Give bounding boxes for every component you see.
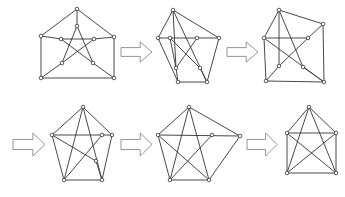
graph-vertex xyxy=(210,133,214,137)
graph-2 xyxy=(156,8,221,84)
graph-edge xyxy=(52,135,96,161)
right-arrow-icon xyxy=(13,133,45,156)
graph-vertex xyxy=(100,178,104,182)
graph-vertex xyxy=(50,133,54,137)
graph-vertex xyxy=(92,37,96,41)
graph-edge xyxy=(264,10,279,38)
graph-edge xyxy=(308,24,323,38)
graph-vertex xyxy=(91,61,95,65)
graph-edge xyxy=(170,38,200,68)
graph-vertex xyxy=(39,76,43,80)
graph-edge xyxy=(158,10,173,38)
graph-vertex xyxy=(322,80,326,84)
graph-vertex xyxy=(321,22,325,26)
graph-vertex xyxy=(217,36,221,40)
graph-vertex xyxy=(112,76,116,80)
graph-edge xyxy=(189,107,209,180)
graph-edge xyxy=(266,66,279,81)
graph-transformation-diagram xyxy=(0,0,345,197)
graph-vertex xyxy=(60,61,64,65)
graph-vertex xyxy=(59,37,63,41)
graph-vertex xyxy=(174,66,178,70)
graph-vertex xyxy=(207,178,211,182)
graph-vertex xyxy=(156,133,160,137)
graph-edge xyxy=(266,81,324,82)
graph-edge xyxy=(83,107,102,180)
graph-edge xyxy=(96,161,102,180)
graph-vertex xyxy=(198,66,202,70)
graph-vertex xyxy=(306,36,310,40)
graph-edge xyxy=(158,135,170,180)
graph-edge xyxy=(41,36,61,39)
graph-vertex xyxy=(110,133,114,137)
graph-vertex xyxy=(285,131,289,135)
graph-edge xyxy=(93,63,114,78)
graph-edge xyxy=(323,24,324,82)
graph-edge xyxy=(279,10,303,67)
graph-vertex xyxy=(81,105,85,109)
graph-vertex xyxy=(285,171,289,175)
graph-edge xyxy=(52,107,83,135)
graph-edge xyxy=(176,38,197,68)
graph-vertex xyxy=(187,105,191,109)
graph-vertex xyxy=(168,178,172,182)
graph-vertex xyxy=(171,8,175,12)
graph-vertex xyxy=(238,134,242,138)
graph-edge xyxy=(41,63,62,78)
graph-edge xyxy=(52,135,64,180)
graph-edge xyxy=(41,9,77,36)
graph-vertex xyxy=(264,79,268,83)
right-arrow-icon xyxy=(227,42,258,62)
graph-edge xyxy=(158,107,189,135)
graph-vertex xyxy=(262,36,266,40)
graph-edge xyxy=(287,107,309,173)
graph-edge xyxy=(158,135,240,136)
graph-edge xyxy=(287,107,309,133)
graph-edge xyxy=(77,9,114,37)
right-arrow-icon xyxy=(121,42,152,62)
graph-vertex xyxy=(39,34,43,38)
graph-5 xyxy=(156,105,242,182)
graph-edge xyxy=(200,68,207,82)
graph-edge xyxy=(309,107,336,133)
graph-edge xyxy=(209,136,240,180)
graph-edge xyxy=(94,37,114,39)
graph-vertex xyxy=(176,80,180,84)
graph-edge xyxy=(303,67,324,82)
right-arrow-icon xyxy=(247,133,277,156)
graph-vertex xyxy=(205,80,209,84)
graph-edge xyxy=(309,107,336,173)
right-arrow-icon xyxy=(121,133,152,156)
graphs xyxy=(39,7,338,182)
graph-vertex xyxy=(168,36,172,40)
graph-vertex xyxy=(195,36,199,40)
graph-edge xyxy=(207,38,219,82)
graph-vertex xyxy=(94,159,98,163)
graph-vertex xyxy=(100,133,104,137)
graph-vertex xyxy=(277,64,281,68)
graph-6 xyxy=(285,105,338,175)
graph-vertex xyxy=(75,24,79,28)
graph-edge xyxy=(189,107,240,136)
graph-edge xyxy=(102,135,112,180)
graph-edge xyxy=(158,135,209,180)
graph-edge xyxy=(279,10,323,24)
graph-vertex xyxy=(334,131,338,135)
graph-edge xyxy=(83,107,112,135)
graph-vertex xyxy=(75,7,79,11)
graph-4 xyxy=(50,105,114,182)
graph-vertex xyxy=(334,171,338,175)
graph-vertex xyxy=(277,8,281,12)
graph-vertex xyxy=(62,178,66,182)
graph-vertex xyxy=(301,65,305,69)
graph-1 xyxy=(39,7,116,80)
graph-edge xyxy=(264,38,266,81)
graph-vertex xyxy=(156,36,160,40)
graph-3 xyxy=(262,8,326,84)
graph-vertex xyxy=(307,105,311,109)
graph-edge xyxy=(170,107,189,180)
graph-vertex xyxy=(112,35,116,39)
